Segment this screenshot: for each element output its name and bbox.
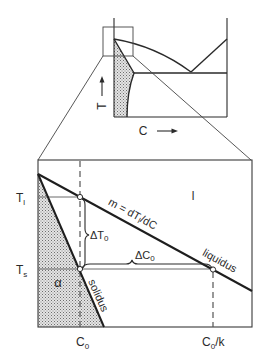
liquidus-c0k-point: [210, 267, 215, 272]
t-axis-label: T: [95, 102, 109, 110]
delta-c0-label: ΔC0: [135, 249, 155, 263]
t-liquidus-label: Tl: [16, 191, 25, 207]
phase-diagram-figure: T C Tl Ts m = dTl/dC l: [0, 0, 265, 361]
c0-axis-label: C0: [76, 335, 90, 351]
overview-diagram: T C: [95, 18, 227, 138]
delta-c0-brace: [82, 260, 212, 268]
up-arrow-icon: [100, 76, 105, 83]
delta-c0-main: ΔC: [135, 249, 150, 261]
c0k-axis-label: C0/k: [202, 335, 225, 351]
delta-c0-sub: 0: [150, 254, 155, 263]
c0-main: C: [76, 335, 85, 349]
t-liquidus-sub: l: [23, 198, 25, 207]
t-solidus-label: Ts: [16, 263, 27, 279]
delta-t0-brace: [82, 199, 89, 268]
slope-pre: m = dT: [107, 195, 143, 222]
right-arrow-icon: [172, 129, 179, 134]
detail-diagram: Tl Ts m = dTl/dC l ΔT0 ΔC0 liquidus soli…: [16, 160, 252, 351]
delta-t0-label: ΔT0: [90, 229, 109, 243]
alpha-phase-label: α: [54, 275, 62, 290]
overview-liquidus-right: [191, 39, 227, 72]
delta-t0-sub: 0: [104, 234, 109, 243]
delta-t0-main: ΔT: [90, 229, 104, 241]
projection-line-left: [38, 56, 103, 160]
solidus-c0-point: [77, 266, 82, 271]
c-axis-label: C: [139, 124, 148, 138]
liquidus-c0-point: [77, 194, 82, 199]
liquidus-label: liquidus: [201, 246, 240, 275]
overview-solid-region-shading: [114, 39, 134, 117]
slope-post: /dC: [138, 213, 159, 232]
c0k-main: C: [202, 335, 211, 349]
c0-sub: 0: [85, 342, 90, 351]
liquid-phase-label: l: [192, 189, 195, 203]
c0k-post: /k: [215, 335, 225, 349]
t-solidus-sub: s: [23, 270, 27, 279]
